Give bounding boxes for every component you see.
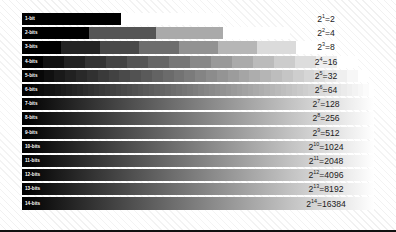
ramp-step [89,27,156,39]
ramp-row-label: 1-bit [25,17,35,22]
ramp-row-label: 9-bits [25,130,38,135]
power-of-two-expression: 29=512 [278,128,374,137]
ramp-step [141,70,152,82]
ramp-step [195,70,206,82]
ramp-step [127,56,148,68]
ramp-row: 10-bits210=1024 [22,141,374,153]
ramp-step [100,41,139,53]
ramp-step [152,70,163,82]
ramp-row-label: 7-bits [25,102,38,107]
power-of-two-expression: 211=2048 [278,157,374,166]
ramp-step [179,41,218,53]
ramp-step [239,70,250,82]
ramp-step [22,13,121,25]
expression-result: 32 [328,71,338,81]
expression-result: 4096 [324,170,343,180]
power-of-two-expression: 24=16 [278,57,374,66]
ramp-row-label: 8-bits [25,116,38,121]
power-of-two-expression: 22=4 [278,29,374,38]
power-of-two-expression: 23=8 [278,43,374,52]
figure-canvas: 1-bit21=22-bits22=43-bits23=84-bits24=16… [0,0,396,232]
bottom-rule [0,230,396,232]
expression-result: 1024 [324,141,343,151]
ramp-step [130,70,141,82]
ramp-row: 8-bits28=256 [22,112,374,124]
expression-result: 256 [325,113,339,123]
ramp-step [121,13,220,25]
ramp-step [163,70,174,82]
expression-result: 4 [330,28,335,38]
ramp-row: 13-bits213=8192 [22,183,374,195]
expression-result: 2048 [324,156,343,166]
ramp-step [190,56,211,68]
ramp-row-label: 5-bits [25,74,38,79]
ramp-step [253,56,274,68]
ramp-row: 3-bits23=8 [22,41,374,53]
ramp-step [106,56,127,68]
ramp-step [148,56,169,68]
power-of-two-expression: 25=32 [278,72,374,81]
ramp-step [64,56,85,68]
ramp-row: 1-bit21=2 [22,13,374,25]
ramp-step [98,70,109,82]
ramp-row-label: 11-bits [25,159,40,164]
ramp-row-label: 14-bits [25,201,40,206]
ramp-step [184,70,195,82]
expression-result: 16 [328,56,338,66]
ramp-step [217,70,228,82]
power-of-two-expression: 21=2 [278,15,374,24]
expression-result: 8192 [324,184,343,194]
ramp-row: 4-bits24=16 [22,56,374,68]
ramp-row: 12-bits212=4096 [22,169,374,181]
ramp-step [43,56,64,68]
expression-result: 128 [325,99,339,109]
ramp-row: 14-bits214=16384 [22,197,374,209]
ramp-row: 7-bits27=128 [22,98,374,110]
ramp-step [156,27,223,39]
grayscale-ramp [22,13,221,25]
ramp-step [44,70,55,82]
ramp-step [61,41,100,53]
ramp-step [85,56,106,68]
ramp-row-label: 3-bits [25,45,38,50]
ramp-row: 5-bits25=32 [22,70,374,82]
ramp-step [54,70,65,82]
ramp-row-label: 2-bits [25,31,38,36]
power-of-two-expression: 28=256 [278,114,374,123]
ramp-row-label: 4-bits [25,59,38,64]
ramp-step [260,70,271,82]
ramp-row-label: 10-bits [25,144,40,149]
power-of-two-expression: 212=4096 [278,171,374,180]
ramp-step [211,56,232,68]
grayscale-ramp [22,27,290,39]
expression-result: 16384 [322,198,346,208]
power-of-two-expression: 27=128 [278,100,374,109]
power-of-two-expression: 213=8192 [278,185,374,194]
power-of-two-expression: 26=64 [278,86,374,95]
ramp-step [249,70,260,82]
power-of-two-expression: 210=1024 [278,142,374,151]
ramp-step [169,56,190,68]
bit-depth-ramp-list: 1-bit21=22-bits22=43-bits23=84-bits24=16… [22,13,374,212]
ramp-step [206,70,217,82]
ramp-step [119,70,130,82]
ramp-step [109,70,120,82]
ramp-row: 6-bits26=64 [22,84,374,96]
expression-result: 64 [328,85,338,95]
ramp-row-label: 6-bits [25,88,38,93]
ramp-step [76,70,87,82]
ramp-step [232,56,253,68]
ramp-row: 9-bits29=512 [22,127,374,139]
ramp-step [65,70,76,82]
ramp-row: 11-bits211=2048 [22,155,374,167]
expression-result: 8 [330,42,335,52]
expression-result: 512 [325,127,339,137]
ramp-row-label: 13-bits [25,187,40,192]
ramp-step [87,70,98,82]
ramp-row-label: 12-bits [25,173,40,178]
ramp-step [139,41,178,53]
ramp-step [228,70,239,82]
ramp-step [174,70,185,82]
ramp-row: 2-bits22=4 [22,27,374,39]
ramp-step [218,41,257,53]
